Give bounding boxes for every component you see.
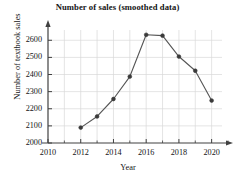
x-tick-label: 2010 xyxy=(33,149,63,157)
y-tick-label: 2100 xyxy=(12,122,42,130)
chart-screenshot: Number of sales (smoothed data) Number o… xyxy=(0,0,235,183)
y-tick-label: 2500 xyxy=(12,53,42,61)
y-tick-label: 2000 xyxy=(12,139,42,147)
axis-lines xyxy=(42,20,233,146)
x-tick-label: 2020 xyxy=(197,149,227,157)
y-tick-label: 2300 xyxy=(12,88,42,96)
x-tick-label: 2014 xyxy=(98,149,128,157)
x-tick-label: 2012 xyxy=(66,149,96,157)
y-tick-label: 2600 xyxy=(12,36,42,44)
y-tick-label: 2200 xyxy=(12,105,42,113)
gridlines xyxy=(48,30,222,143)
y-tick-label: 2400 xyxy=(12,71,42,79)
x-tick-label: 2018 xyxy=(164,149,194,157)
x-tick-label: 2016 xyxy=(131,149,161,157)
